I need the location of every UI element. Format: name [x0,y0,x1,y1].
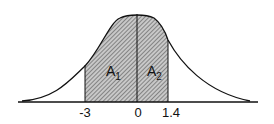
x-label-1.4: 1.4 [162,105,180,120]
x-label-neg3: -3 [79,105,91,120]
normal-curve-svg: A1 A2 -3 0 1.4 [0,0,274,124]
normal-curve-diagram: A1 A2 -3 0 1.4 [0,0,274,124]
x-label-0: 0 [134,105,141,120]
